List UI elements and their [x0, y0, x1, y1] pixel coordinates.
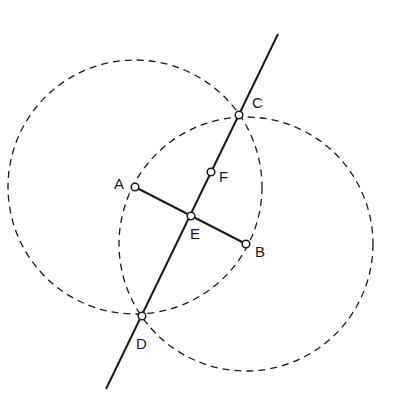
point-d [138, 312, 146, 320]
label-f: F [219, 168, 228, 185]
diagram-canvas: A B C D E F [0, 0, 398, 418]
label-c: C [252, 94, 263, 111]
point-a [131, 183, 139, 191]
label-b: B [255, 243, 265, 260]
label-e: E [190, 225, 200, 242]
bisector-line-cd [106, 34, 278, 389]
label-a: A [114, 175, 124, 192]
label-d: D [136, 335, 147, 352]
construction-svg: A B C D E F [0, 0, 398, 418]
point-c [235, 111, 243, 119]
point-e [187, 212, 195, 220]
point-b [242, 240, 250, 248]
point-f [207, 168, 215, 176]
